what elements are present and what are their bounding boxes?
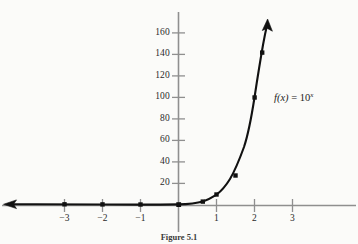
function-base: 10	[300, 92, 311, 103]
exponential-curve-group	[4, 19, 273, 209]
plot-canvas	[0, 0, 358, 244]
y-tick-label-60: 60	[160, 136, 170, 146]
data-point-x-1p5	[233, 173, 237, 177]
x-tick-label-neg2: −2	[97, 214, 108, 224]
data-point-x-1	[214, 192, 218, 196]
figure-caption: Figure 5.1	[161, 233, 198, 242]
y-tick-label-140: 140	[155, 50, 170, 60]
y-tick-label-120: 120	[155, 71, 170, 81]
x-tick-label-neg1: −1	[135, 214, 146, 224]
x-tick-label-neg3: −3	[59, 214, 70, 224]
exponential-function-figure: 160 140 120 100 80 60 40 20 −3 −2 −1 1 2…	[0, 0, 358, 244]
function-annotation: f(x) = 10x	[274, 93, 313, 104]
curve-up-arrowhead	[262, 19, 272, 31]
data-point-x-neg2	[100, 202, 104, 206]
data-point-x-0p5	[201, 199, 205, 203]
y-tick-label-160: 160	[155, 28, 170, 38]
function-exponent: x	[310, 91, 313, 99]
y-tick-label-40: 40	[160, 157, 170, 167]
data-point-x-2	[252, 95, 256, 99]
data-point-x-0	[176, 202, 181, 207]
exponential-curve	[10, 25, 267, 205]
y-tick-label-20: 20	[160, 179, 170, 189]
data-point-x-neg3	[62, 202, 66, 206]
y-tick-label-80: 80	[160, 114, 170, 124]
axes-group	[2, 12, 356, 232]
function-equals: =	[289, 92, 300, 103]
function-argument: (x)	[277, 92, 289, 103]
data-point-x-2p2	[260, 50, 264, 54]
x-tick-label-pos3: 3	[290, 214, 295, 224]
data-point-x-neg1	[138, 202, 142, 206]
x-tick-label-pos2: 2	[252, 214, 257, 224]
x-tick-label-pos1: 1	[214, 214, 219, 224]
y-tick-label-100: 100	[155, 93, 170, 103]
